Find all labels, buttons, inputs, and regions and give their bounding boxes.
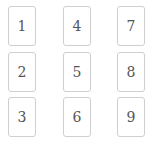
card-label: 5 bbox=[73, 65, 82, 79]
card-5[interactable]: 5 bbox=[63, 52, 91, 92]
card-label: 6 bbox=[73, 110, 82, 124]
card-6[interactable]: 6 bbox=[63, 97, 91, 137]
card-1[interactable]: 1 bbox=[8, 6, 36, 46]
card-label: 9 bbox=[127, 110, 136, 124]
card-7[interactable]: 7 bbox=[117, 6, 145, 46]
card-label: 1 bbox=[18, 19, 27, 33]
card-label: 2 bbox=[18, 65, 27, 79]
card-4[interactable]: 4 bbox=[63, 6, 91, 46]
card-2[interactable]: 2 bbox=[8, 52, 36, 92]
card-8[interactable]: 8 bbox=[117, 52, 145, 92]
card-label: 8 bbox=[127, 65, 136, 79]
card-label: 3 bbox=[18, 110, 27, 124]
card-label: 7 bbox=[127, 19, 136, 33]
card-3[interactable]: 3 bbox=[8, 97, 36, 137]
card-9[interactable]: 9 bbox=[117, 97, 145, 137]
card-label: 4 bbox=[73, 19, 82, 33]
